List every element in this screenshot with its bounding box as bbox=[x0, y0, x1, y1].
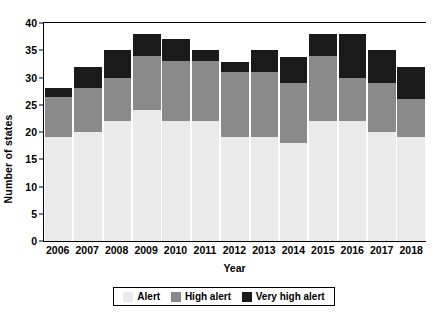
plot-inner: 0510152025303540 bbox=[44, 23, 426, 241]
bar-segment[interactable] bbox=[192, 50, 220, 61]
bar-segment[interactable] bbox=[309, 56, 337, 121]
x-tick-label: 2007 bbox=[73, 244, 101, 256]
legend-item[interactable]: Very high alert bbox=[242, 291, 325, 302]
bar-segment[interactable] bbox=[309, 121, 337, 241]
bar-segment[interactable] bbox=[251, 137, 279, 241]
x-axis-tick-labels: 2006200720082009201020112012201320142015… bbox=[43, 244, 426, 256]
x-axis-title: Year bbox=[43, 262, 426, 274]
bar-column[interactable] bbox=[251, 23, 279, 241]
legend-swatch bbox=[171, 292, 181, 302]
bar-segment[interactable] bbox=[162, 39, 190, 61]
bar-segment[interactable] bbox=[280, 143, 308, 241]
bar-segment[interactable] bbox=[280, 57, 308, 83]
bar-segment[interactable] bbox=[221, 137, 249, 241]
x-tick-label: 2014 bbox=[280, 244, 308, 256]
bar-segment[interactable] bbox=[251, 50, 279, 72]
x-tick-label: 2008 bbox=[103, 244, 131, 256]
bar-segment[interactable] bbox=[133, 34, 161, 56]
legend-swatch bbox=[242, 292, 252, 302]
x-tick-label: 2018 bbox=[397, 244, 425, 256]
bar-segment[interactable] bbox=[74, 88, 102, 132]
legend-item[interactable]: Alert bbox=[123, 291, 160, 302]
bar-segment[interactable] bbox=[192, 121, 220, 241]
bar-segment[interactable] bbox=[397, 137, 425, 241]
bar-segment[interactable] bbox=[368, 50, 396, 83]
bar-column[interactable] bbox=[339, 23, 367, 241]
bar-segment[interactable] bbox=[251, 72, 279, 137]
bar-segment[interactable] bbox=[133, 56, 161, 111]
x-tick-label: 2017 bbox=[368, 244, 396, 256]
bar-segment[interactable] bbox=[339, 34, 367, 78]
bar-segment[interactable] bbox=[74, 67, 102, 89]
bar-column[interactable] bbox=[309, 23, 337, 241]
legend-label: Alert bbox=[137, 291, 160, 302]
chart-legend: AlertHigh alertVery high alert bbox=[113, 287, 335, 306]
x-tick-label: 2013 bbox=[250, 244, 278, 256]
bar-column[interactable] bbox=[368, 23, 396, 241]
legend-item[interactable]: High alert bbox=[171, 291, 231, 302]
x-tick-label: 2015 bbox=[309, 244, 337, 256]
bar-segment[interactable] bbox=[45, 88, 73, 96]
x-tick-label: 2010 bbox=[162, 244, 190, 256]
bar-segment[interactable] bbox=[192, 61, 220, 121]
bar-segment[interactable] bbox=[162, 121, 190, 241]
bar-segment[interactable] bbox=[280, 83, 308, 143]
bar-segment[interactable] bbox=[221, 72, 249, 137]
bar-column[interactable] bbox=[133, 23, 161, 241]
bar-segment[interactable] bbox=[339, 121, 367, 241]
x-tick-label: 2009 bbox=[132, 244, 160, 256]
bar-segment[interactable] bbox=[133, 110, 161, 241]
x-tick-label: 2006 bbox=[44, 244, 72, 256]
x-tick-label: 2016 bbox=[338, 244, 366, 256]
bar-group bbox=[44, 23, 426, 241]
x-tick-label: 2011 bbox=[191, 244, 219, 256]
bar-segment[interactable] bbox=[74, 132, 102, 241]
chart-figure: Number of states 0510152025303540 200620… bbox=[0, 0, 445, 318]
x-tick-label: 2012 bbox=[221, 244, 249, 256]
bar-column[interactable] bbox=[104, 23, 132, 241]
legend-label: Very high alert bbox=[256, 291, 325, 302]
bar-segment[interactable] bbox=[104, 78, 132, 122]
bar-column[interactable] bbox=[74, 23, 102, 241]
bar-column[interactable] bbox=[45, 23, 73, 241]
legend-label: High alert bbox=[185, 291, 231, 302]
bar-segment[interactable] bbox=[309, 34, 337, 56]
legend-swatch bbox=[123, 292, 133, 302]
plot-area: 0510152025303540 bbox=[43, 22, 426, 241]
bar-column[interactable] bbox=[397, 23, 425, 241]
bar-column[interactable] bbox=[192, 23, 220, 241]
bar-segment[interactable] bbox=[45, 97, 73, 138]
bar-segment[interactable] bbox=[104, 50, 132, 77]
bar-column[interactable] bbox=[162, 23, 190, 241]
bar-segment[interactable] bbox=[221, 62, 249, 72]
bar-segment[interactable] bbox=[397, 67, 425, 100]
bar-segment[interactable] bbox=[162, 61, 190, 121]
bar-column[interactable] bbox=[280, 23, 308, 241]
y-axis-title: Number of states bbox=[2, 115, 14, 204]
bar-segment[interactable] bbox=[368, 132, 396, 241]
bar-segment[interactable] bbox=[104, 121, 132, 241]
bar-segment[interactable] bbox=[368, 83, 396, 132]
bar-column[interactable] bbox=[221, 23, 249, 241]
bar-segment[interactable] bbox=[45, 137, 73, 241]
bar-segment[interactable] bbox=[397, 99, 425, 137]
bar-segment[interactable] bbox=[339, 78, 367, 122]
x-axis-line bbox=[43, 241, 426, 242]
